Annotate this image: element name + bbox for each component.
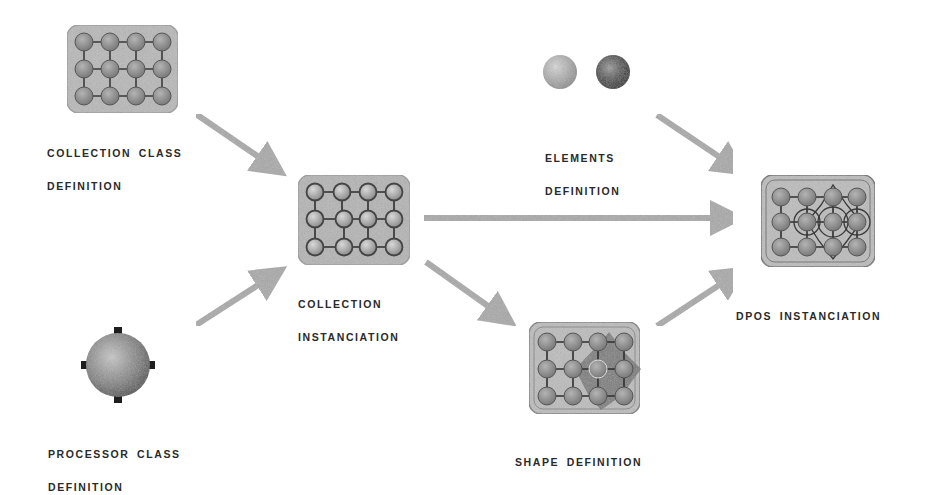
arrow-elements-to-dpos [657, 115, 733, 166]
collection-class-box [67, 25, 178, 113]
light-element-icon [543, 55, 577, 89]
arrows [196, 114, 733, 326]
processor-class-label: PROCESSOR CLASS DEFINITION [48, 427, 181, 495]
arrow-instance-to-shape [426, 262, 502, 316]
collection-class-label: COLLECTION CLASS DEFINITION [47, 126, 182, 203]
collection-instanciation-box [298, 175, 410, 265]
collection-instanciation-label: COLLECTION INSTANCIATION [298, 277, 400, 354]
arrow-processor-to-instance [196, 276, 272, 325]
shape-definition-label: SHAPE DEFINITION [515, 435, 642, 479]
dpos-instanciation-box [761, 175, 875, 267]
shape-definition-box [529, 322, 641, 414]
arrow-shape-to-dpos [657, 276, 733, 326]
arrow-class-to-instance [196, 114, 272, 166]
elements-spheres [543, 55, 630, 89]
processor-icon [81, 327, 155, 403]
elements-definition-label: ELEMENTS DEFINITION [545, 131, 621, 208]
dpos-instanciation-label: DPOS INSTANCIATION [736, 289, 881, 333]
dark-element-icon [596, 55, 630, 89]
